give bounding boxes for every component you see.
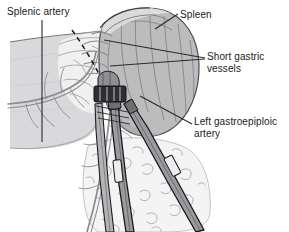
label-left-gastroepiploic-artery: Left gastroepiploicartery (194, 116, 277, 139)
label-short-gastric-line1: Short gastric (207, 51, 264, 62)
label-short-gastric-vessels: Short gastricvessels (207, 51, 264, 74)
label-left-gastroepiploic-line1: Left gastroepiploic (194, 116, 277, 127)
label-spleen: Spleen (180, 9, 212, 21)
label-short-gastric-line2: vessels (207, 63, 241, 74)
medical-illustration-figure: Splenic artery Spleen Short gastricvesse… (0, 0, 289, 232)
label-left-gastroepiploic-line2: artery (194, 128, 220, 139)
label-splenic-artery: Splenic artery (7, 6, 70, 18)
